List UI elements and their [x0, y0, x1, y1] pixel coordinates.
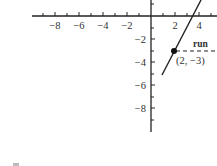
x-label: 2: [172, 20, 177, 31]
cropped-artifact: [13, 163, 19, 166]
y-label: −8: [135, 103, 146, 114]
y-label: −4: [135, 57, 147, 68]
y-label: −2: [135, 34, 146, 45]
coordinate-plane: −8 −6 −4 −2 2 4 −2 −4 −6 −8 run (2, −3): [0, 0, 217, 166]
run-label: run: [193, 39, 209, 49]
x-label: −4: [97, 20, 109, 31]
y-label: −6: [135, 80, 146, 91]
y-tick-labels: −2 −4 −6 −8: [135, 34, 147, 114]
x-label: −2: [121, 20, 132, 31]
x-label: −6: [73, 20, 84, 31]
point-marker: [171, 48, 177, 54]
x-tick-labels: −8 −6 −4 −2 2 4: [49, 20, 202, 31]
point-label: (2, −3): [176, 55, 205, 67]
x-label: 4: [196, 20, 202, 31]
x-label: −8: [49, 20, 60, 31]
